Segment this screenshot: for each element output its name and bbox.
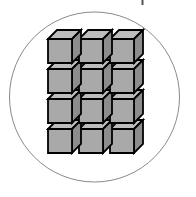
cube-front-face: [48, 99, 72, 123]
cube-row-3-col-3: [110, 90, 143, 123]
cube-row-2-col-3: [110, 60, 143, 93]
cube-row-2-col-1: [48, 60, 81, 93]
cube-row-1-col-1: [48, 30, 81, 63]
cube-front-face: [110, 69, 134, 93]
cube-front-face: [48, 69, 72, 93]
cube-row-1-col-2: [79, 30, 112, 63]
cube-front-face: [48, 39, 72, 63]
cube-grid: [48, 30, 143, 153]
cube-front-face: [79, 129, 103, 153]
figure-canvas: [0, 0, 196, 197]
top-tick-mark: [142, 0, 144, 5]
cube-front-face: [79, 99, 103, 123]
figure-root: [0, 0, 196, 197]
cube-row-4-col-2: [79, 120, 112, 153]
cube-front-face: [48, 129, 72, 153]
cube-row-4-col-3: [110, 120, 143, 153]
cube-row-4-col-1: [48, 120, 81, 153]
cube-front-face: [110, 129, 134, 153]
cube-row-2-col-2: [79, 60, 112, 93]
cube-front-face: [79, 69, 103, 93]
cube-row-3-col-1: [48, 90, 81, 123]
cube-row-1-col-3: [110, 30, 143, 63]
cube-front-face: [110, 99, 134, 123]
cube-front-face: [110, 39, 134, 63]
cube-front-face: [79, 39, 103, 63]
cube-row-3-col-2: [79, 90, 112, 123]
